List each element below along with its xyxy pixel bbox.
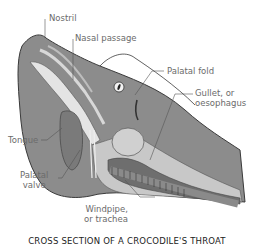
label-nostril: Nostril [49,13,77,23]
label-palatal-valve-line1: Palatal [20,170,48,180]
diagram-caption: CROSS SECTION OF A CROCODILE'S THROAT [0,236,254,246]
label-nasal-passage: Nasal passage [75,33,137,43]
label-gullet: Gullet, or oesophagus [195,88,246,108]
label-windpipe: Windpipe, or trachea [84,204,128,224]
label-gullet-line2: oesophagus [195,98,246,108]
label-palatal-valve: Palatal valve [20,170,48,190]
label-palatal-fold: Palatal fold [167,66,214,76]
palatal-fold [112,128,144,156]
label-windpipe-line1: Windpipe, [84,204,128,214]
label-tongue: Tongue [8,135,38,145]
label-windpipe-line2: or trachea [84,214,128,224]
label-palatal-valve-line2: valve [20,180,48,190]
label-gullet-line1: Gullet, or [195,88,246,98]
